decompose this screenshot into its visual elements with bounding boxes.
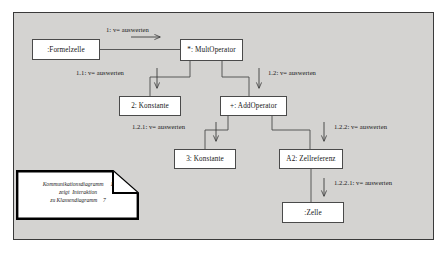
object-addoperator-label: +: AddOperator bbox=[230, 102, 277, 110]
uml-note[interactable]: Kommunikationsdiagramm 1 zeigt Interakti… bbox=[16, 170, 139, 220]
object-addoperator[interactable]: +: AddOperator bbox=[220, 96, 287, 116]
object-konstante-3[interactable]: 3: Konstante bbox=[174, 149, 236, 169]
message-label-1-2-2: 1.2.2: v= auswerten bbox=[334, 123, 387, 130]
object-multoperator-label: *: MultOperator bbox=[187, 46, 235, 54]
message-label-1-2: 1.2: v= auswerten bbox=[268, 69, 316, 76]
note-line-3: zu Klassendiagramm 7 bbox=[24, 196, 132, 204]
object-zellreferenz[interactable]: A2: Zellreferenz bbox=[279, 149, 343, 169]
object-multoperator[interactable]: *: MultOperator bbox=[180, 39, 243, 61]
object-zelle-label: :Zelle bbox=[304, 209, 321, 217]
note-text: Kommunikationsdiagramm 1 zeigt Interakti… bbox=[24, 180, 132, 205]
diagram-canvas: :Formelzelle *: MultOperator 2: Konstant… bbox=[0, 0, 448, 253]
object-formelzelle[interactable]: :Formelzelle bbox=[32, 39, 100, 60]
note-line-2: zeigt Interaktion bbox=[24, 188, 132, 196]
object-zelle[interactable]: :Zelle bbox=[282, 202, 344, 223]
object-konstante-2[interactable]: 2: Konstante bbox=[119, 96, 181, 116]
message-label-1-1: 1.1: v= auswerten bbox=[76, 69, 124, 76]
object-zellreferenz-label: A2: Zellreferenz bbox=[286, 155, 335, 163]
object-konstante-2-label: 2: Konstante bbox=[131, 102, 169, 110]
note-line-1: Kommunikationsdiagramm 1 bbox=[24, 180, 132, 188]
object-formelzelle-label: :Formelzelle bbox=[47, 46, 85, 54]
message-label-1-2-2-1: 1.2.2.1: v= auswerten bbox=[334, 179, 392, 186]
message-label-1: 1: v= auswerten bbox=[106, 26, 149, 33]
object-konstante-3-label: 3: Konstante bbox=[186, 155, 224, 163]
message-label-1-2-1: 1.2.1: v= auswerten bbox=[132, 123, 185, 130]
